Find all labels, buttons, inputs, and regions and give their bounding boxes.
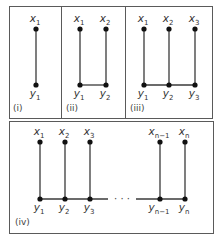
node-x1 — [33, 26, 38, 31]
x-label: x1 — [137, 12, 149, 27]
y-label-subscript: 2 — [169, 94, 173, 102]
x-label: x2 — [162, 12, 174, 27]
y-label: y1 — [29, 87, 41, 102]
node-x2 — [62, 139, 67, 144]
node-x2 — [103, 26, 108, 31]
x-label-subscript: 2 — [106, 19, 110, 27]
y-label: y1 — [33, 201, 45, 216]
x-label-subscript: 2 — [65, 132, 69, 140]
x-label-subscript: 1 — [36, 19, 40, 27]
node-xn−1 — [157, 139, 162, 144]
y-label: y2 — [58, 201, 70, 216]
x-label: x1 — [29, 12, 41, 27]
x-label-subscript: n−1 — [155, 132, 170, 140]
y-label-subscript: n−1 — [155, 208, 170, 216]
bipartite-graph-diagram: x1y1(i)x1y1x2y2(ii)x1y1x2y2x3y3(iii)· · … — [0, 0, 219, 238]
panel-iii: x1y1x2y2x3y3(iii) — [126, 7, 213, 119]
node-x1 — [141, 26, 146, 31]
panel-ii: x1y1x2y2(ii) — [62, 7, 126, 119]
y-label: y3 — [83, 201, 95, 216]
y-label: y1 — [137, 87, 149, 102]
x-label-subscript: 1 — [80, 19, 84, 27]
node-x2 — [166, 26, 171, 31]
x-label: xn−1 — [148, 125, 170, 140]
y-label-subscript: 1 — [144, 94, 148, 102]
x-label: x3 — [188, 12, 200, 27]
y-label: y3 — [188, 87, 200, 102]
x-label-subscript: 2 — [169, 19, 173, 27]
y-label-subscript: 3 — [90, 208, 94, 216]
x-label: x2 — [99, 12, 111, 27]
panel-caption: (i) — [13, 103, 23, 113]
panel-border — [62, 7, 126, 119]
y-label: yn−1 — [148, 201, 170, 216]
panel-iv: · · ·x1y1x2y2x3y3xn−1yn−1xnyn(iv) — [10, 122, 214, 234]
x-label-subscript: n — [185, 132, 189, 140]
panel-i: x1y1(i) — [10, 7, 62, 119]
y-label-subscript: 3 — [195, 94, 199, 102]
x-label: xn — [178, 125, 190, 140]
ellipsis: · · · — [114, 193, 130, 204]
y-label: y1 — [73, 87, 85, 102]
y-label: y2 — [99, 87, 111, 102]
x-label: x3 — [83, 125, 95, 140]
y-label-subscript: 2 — [65, 208, 69, 216]
node-x1 — [77, 26, 82, 31]
node-x1 — [37, 139, 42, 144]
x-label: x1 — [33, 125, 45, 140]
panel-caption: (iv) — [15, 217, 30, 227]
x-label-subscript: 1 — [40, 132, 44, 140]
y-label-subscript: 1 — [40, 208, 44, 216]
y-label: yn — [178, 201, 190, 216]
panel-caption: (ii) — [66, 103, 78, 113]
x-label-subscript: 3 — [195, 19, 199, 27]
x-label: x1 — [73, 12, 85, 27]
y-label-subscript: 1 — [36, 94, 40, 102]
y-label-subscript: 1 — [80, 94, 84, 102]
node-x3 — [87, 139, 92, 144]
panel-caption: (iii) — [130, 103, 145, 113]
node-xn — [182, 139, 187, 144]
y-label: y2 — [162, 87, 174, 102]
node-x3 — [192, 26, 197, 31]
x-label: x2 — [58, 125, 70, 140]
node-yn−1 — [157, 196, 162, 201]
y-label-subscript: 2 — [106, 94, 110, 102]
x-label-subscript: 1 — [144, 19, 148, 27]
x-label-subscript: 3 — [90, 132, 94, 140]
y-label-subscript: n — [185, 208, 189, 216]
